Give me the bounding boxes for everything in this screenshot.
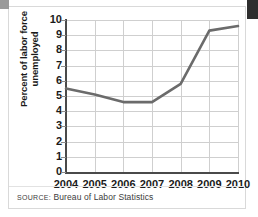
x-gridline	[238, 20, 239, 172]
chart-area: Percent of labor force unemployed 109876…	[8, 6, 246, 209]
y-tick-label: 7	[38, 60, 62, 71]
y-tick-mark	[61, 96, 66, 97]
y-tick-mark	[61, 81, 66, 82]
y-tick-mark	[61, 20, 66, 21]
y-tick-mark	[61, 35, 66, 36]
y-tick-label: 3	[38, 120, 62, 131]
y-tick-label: 10	[38, 14, 62, 25]
y-tick-label: 4	[38, 105, 62, 116]
y-tick-mark	[61, 111, 66, 112]
y-tick-mark	[61, 66, 66, 67]
y-tick-mark	[61, 157, 66, 158]
y-tick-mark	[61, 142, 66, 143]
source-text: Bureau of Labor Statistics	[51, 192, 153, 202]
y-tick-label: 9	[38, 29, 62, 40]
x-axis-tick-labels: 2004200520062007200820092010	[66, 177, 238, 193]
x-axis-line	[65, 172, 239, 174]
y-tick-label: 5	[38, 90, 62, 101]
y-tick-label: 0	[38, 166, 62, 177]
y-tick-label: 8	[38, 44, 62, 55]
unemployment-chart-figure: Percent of labor force unemployed 109876…	[0, 0, 258, 217]
x-tick-label: 2010	[221, 177, 255, 191]
source-note: SOURCE: Bureau of Labor Statistics	[17, 192, 153, 202]
source-label: SOURCE:	[17, 194, 51, 201]
page-edge-artifact-right	[247, 0, 258, 19]
y-axis-title-line-1: Percent of labor force	[18, 11, 29, 107]
source-divider	[9, 186, 245, 187]
y-tick-mark	[61, 50, 66, 51]
y-tick-label: 6	[38, 75, 62, 86]
y-tick-mark	[61, 126, 66, 127]
data-series-line	[66, 20, 238, 172]
y-tick-label: 1	[38, 151, 62, 162]
y-tick-mark	[61, 172, 66, 173]
y-tick-label: 2	[38, 136, 62, 147]
